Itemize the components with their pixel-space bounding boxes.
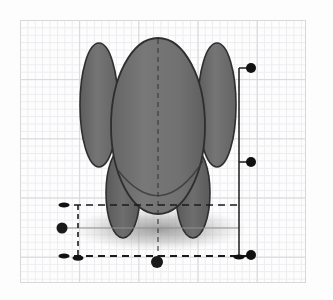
scene-geometry: [21, 21, 305, 282]
modeling-app-window: [0, 0, 333, 300]
model-svg: [21, 21, 306, 283]
viewport-canvas[interactable]: [20, 20, 306, 283]
